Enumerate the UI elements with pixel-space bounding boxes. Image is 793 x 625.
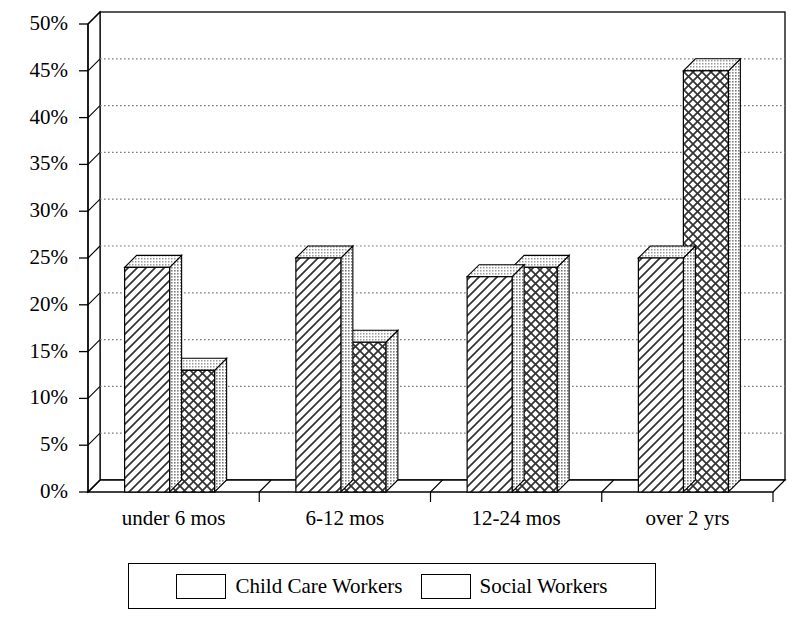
bar-chart: 0%5%10%15%20%25%30%35%40%45%50% xyxy=(0,0,793,625)
x-axis-tick-label: under 6 mos xyxy=(89,506,259,530)
legend-swatch-cross-hatch-icon xyxy=(421,574,471,599)
bar xyxy=(125,267,170,492)
bar xyxy=(467,277,512,492)
legend-item-child-care-workers: Child Care Workers xyxy=(176,574,402,599)
chart-legend: Child Care Workers Social Workers xyxy=(128,563,656,609)
bar xyxy=(638,258,683,492)
x-axis-tick-label: over 2 yrs xyxy=(602,506,772,530)
plot-area xyxy=(0,0,793,540)
x-axis: under 6 mos6-12 mos12-24 mosover 2 yrs xyxy=(0,498,793,532)
legend-item-social-workers: Social Workers xyxy=(421,574,608,599)
x-axis-tick-label: 6-12 mos xyxy=(260,506,430,530)
legend-label: Child Care Workers xyxy=(235,576,402,597)
bar xyxy=(296,258,341,492)
legend-swatch-diagonal-hatch-icon xyxy=(176,574,226,599)
x-axis-tick-label: 12-24 mos xyxy=(431,506,601,530)
legend-label: Social Workers xyxy=(480,576,608,597)
